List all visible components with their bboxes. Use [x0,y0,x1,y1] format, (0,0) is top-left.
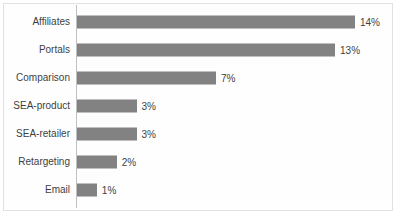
bar-track: 3% [77,100,397,113]
bar-track: 7% [77,72,397,85]
value-label-portals: 13% [340,44,360,56]
bar-row: Portals 13% [0,36,397,64]
bar-comparison [77,72,216,85]
category-label-sea-product: SEA-product [0,100,70,112]
bar-retargeting [77,156,117,169]
bar-sea-retailer [77,128,137,141]
category-label-portals: Portals [0,44,70,56]
value-label-affiliates: 14% [360,16,380,28]
bar-track: 14% [77,16,397,29]
category-label-affiliates: Affiliates [0,16,70,28]
value-label-sea-retailer: 3% [142,128,156,140]
bar-row: Affiliates 14% [0,8,397,36]
bar-rows: Affiliates 14% Portals 13% Comparison 7%… [0,8,397,204]
bar-email [77,184,97,197]
bar-track: 1% [77,184,397,197]
bar-track: 2% [77,156,397,169]
bar-row: Email 1% [0,176,397,204]
bar-row: Comparison 7% [0,64,397,92]
bar-track: 13% [77,44,397,57]
category-label-sea-retailer: SEA-retailer [0,128,70,140]
bar-row: Retargeting 2% [0,148,397,176]
bar-row: SEA-retailer 3% [0,120,397,148]
bar-row: SEA-product 3% [0,92,397,120]
category-label-email: Email [0,184,70,196]
category-label-comparison: Comparison [0,72,70,84]
bar-sea-product [77,100,137,113]
value-label-sea-product: 3% [142,100,156,112]
bar-chart: Affiliates 14% Portals 13% Comparison 7%… [0,0,397,217]
bar-affiliates [77,16,355,29]
bar-track: 3% [77,128,397,141]
value-label-comparison: 7% [221,72,235,84]
category-label-retargeting: Retargeting [0,156,70,168]
value-label-retargeting: 2% [122,156,136,168]
bar-portals [77,44,335,57]
value-label-email: 1% [102,184,116,196]
